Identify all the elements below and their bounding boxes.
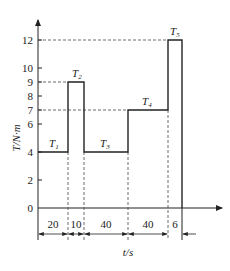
svg-text:7: 7	[28, 104, 34, 116]
svg-text:9: 9	[28, 76, 34, 88]
y-tick-labels: 0 2 4 6 7 8 9 10 12	[22, 34, 34, 214]
torque-time-diagram: 0 2 4 6 7 8 9 10 12 T/N·m T1 T2 T3 T4 T5	[0, 0, 230, 271]
svg-text:T2: T2	[72, 67, 82, 81]
svg-text:20: 20	[48, 218, 60, 230]
svg-text:2: 2	[28, 174, 34, 186]
svg-text:10: 10	[22, 62, 34, 74]
torque-step-curve	[38, 40, 182, 208]
svg-text:6: 6	[172, 218, 178, 230]
svg-text:40: 40	[101, 218, 113, 230]
svg-text:10: 10	[71, 218, 83, 230]
svg-text:12: 12	[22, 34, 33, 46]
svg-text:T5: T5	[170, 25, 180, 39]
svg-text:T3: T3	[100, 137, 110, 151]
svg-text:8: 8	[28, 90, 34, 102]
svg-text:T4: T4	[142, 95, 152, 109]
duration-labels: 20 10 40 40 6	[48, 218, 179, 230]
svg-text:4: 4	[28, 146, 34, 158]
svg-text:0: 0	[28, 202, 34, 214]
svg-text:6: 6	[28, 118, 34, 130]
x-axis-label: t/s	[123, 246, 133, 258]
svg-text:T1: T1	[49, 137, 59, 151]
svg-text:40: 40	[143, 218, 155, 230]
y-axis-label: T/N·m	[10, 124, 22, 151]
